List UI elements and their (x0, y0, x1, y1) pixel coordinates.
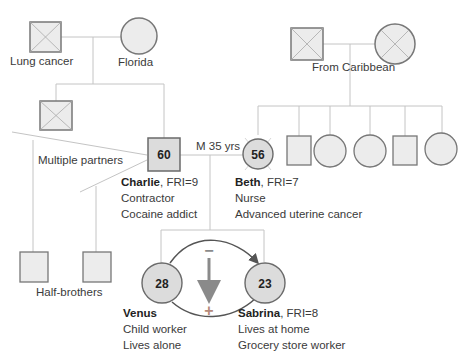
maternal-grandfather (291, 28, 323, 60)
maternal-grandparents-label: From Caribbean (312, 59, 395, 75)
svg-text:60: 60 (157, 148, 171, 162)
marriage-duration-label: M 35 yrs (196, 138, 240, 154)
charlie-note: Cocaine addict (121, 206, 198, 222)
sabrina-info: Sabrina, FRI=8 Lives at home Grocery sto… (238, 305, 345, 353)
beth-name: Beth (235, 176, 261, 188)
sabrina-occupation: Grocery store worker (238, 337, 345, 353)
beth-fri: , FRI=7 (261, 176, 299, 188)
paternal-uncle (40, 101, 72, 130)
multiple-partners-label: Multiple partners (38, 152, 123, 168)
sabrina-fri: , FRI=8 (280, 307, 318, 319)
paternal-grandmother (121, 18, 157, 54)
venus-info: Venus Child worker Lives alone (123, 305, 187, 353)
venus-name: Venus (123, 307, 157, 319)
sabrina-symbol: 23 (245, 263, 285, 303)
paternal-grandfather (30, 22, 61, 52)
maternal-sibling-2 (314, 135, 346, 167)
svg-text:28: 28 (155, 277, 169, 291)
maternal-sibling-3 (354, 135, 386, 167)
maternal-sibling-5 (425, 133, 457, 165)
venus-occupation: Child worker (123, 321, 187, 337)
venus-note: Lives alone (123, 337, 187, 353)
half-brothers-label: Half-brothers (36, 284, 102, 300)
maternal-grandmother (375, 24, 415, 64)
svg-text:23: 23 (258, 277, 272, 291)
maternal-sibling-4 (393, 136, 417, 165)
charlie-fri: , FRI=9 (160, 176, 198, 188)
charlie-info: Charlie, FRI=9 Contractor Cocaine addict (121, 174, 198, 222)
paternal-grandfather-label: Lung cancer (10, 53, 73, 69)
maternal-sibling-1 (287, 136, 311, 165)
charlie-name: Charlie (121, 176, 160, 188)
beth-info: Beth, FRI=7 Nurse Advanced uterine cance… (235, 174, 362, 222)
half-brother-2 (83, 252, 111, 282)
charlie-symbol: 60 (148, 138, 180, 171)
venus-symbol: 28 (142, 263, 182, 303)
beth-occupation: Nurse (235, 190, 362, 206)
charlie-occupation: Contractor (121, 190, 198, 206)
paternal-grandmother-label: Florida (118, 54, 153, 70)
beth-note: Advanced uterine cancer (235, 206, 362, 222)
plus-symbol: + (204, 302, 213, 319)
beth-symbol: 56 (243, 138, 273, 170)
sabrina-name: Sabrina (238, 307, 280, 319)
sabrina-living: Lives at home (238, 321, 345, 337)
half-brother-1 (20, 252, 48, 282)
svg-text:56: 56 (251, 148, 265, 162)
minus-symbol: − (204, 242, 213, 259)
